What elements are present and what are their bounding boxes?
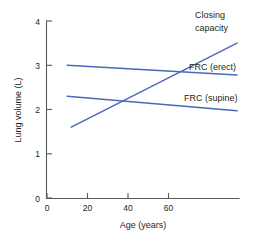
y-axis-title: Lung volume (L) <box>13 77 23 142</box>
y-tick-label-0: 0 <box>35 194 40 204</box>
x-tick-label-40: 40 <box>123 203 133 213</box>
y-axis-ticks <box>47 21 53 198</box>
x-tick-label-60: 60 <box>164 203 174 213</box>
chart-plot-area: 4 3 2 1 0 0 20 40 60 Age (years) Lung vo… <box>0 0 261 242</box>
y-tick-label-4: 4 <box>35 17 40 27</box>
y-tick-label-1: 1 <box>35 149 40 159</box>
series-label-closing-capacity-line1: Closing <box>195 10 225 20</box>
x-tick-label-20: 20 <box>83 203 93 213</box>
series-label-closing-capacity-line2: capacity <box>195 23 229 33</box>
series-label-frc-erect: FRC (erect) <box>189 62 236 72</box>
x-tick-label-0: 0 <box>45 203 50 213</box>
series-label-frc-supine: FRC (supine) <box>184 93 238 103</box>
lung-volume-age-chart: 4 3 2 1 0 0 20 40 60 Age (years) Lung vo… <box>0 0 261 242</box>
y-tick-label-2: 2 <box>35 105 40 115</box>
series-line-closing-capacity <box>71 43 237 127</box>
x-axis-title: Age (years) <box>120 220 167 230</box>
y-tick-label-3: 3 <box>35 61 40 71</box>
x-axis-ticks <box>47 193 169 199</box>
